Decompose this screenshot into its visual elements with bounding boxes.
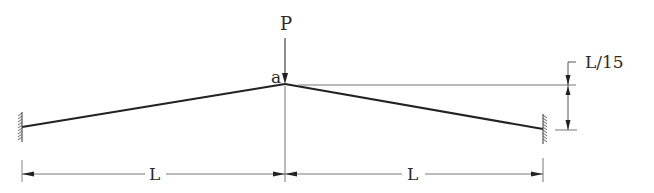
apex-label-a: a	[271, 69, 281, 86]
right-fixed-support-icon	[543, 114, 547, 144]
rise-dimension	[555, 62, 577, 130]
load-arrow-icon	[282, 38, 288, 84]
left-member	[22, 84, 285, 127]
load-label-P: P	[280, 15, 292, 33]
beam-diagram	[0, 0, 654, 193]
span-left-label: L	[149, 166, 160, 183]
right-member	[285, 84, 543, 129]
beam-members	[22, 84, 543, 129]
left-fixed-support-icon	[18, 112, 22, 142]
rise-label: L/15	[585, 54, 624, 71]
span-right-label: L	[407, 166, 418, 183]
span-dimension	[22, 158, 543, 182]
